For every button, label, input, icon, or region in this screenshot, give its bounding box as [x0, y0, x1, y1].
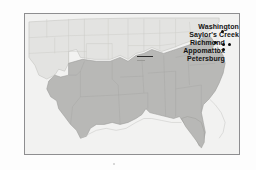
- map-frame: Washington Saylor's Creek Richmond Appom…: [24, 13, 240, 155]
- richmond-dot[interactable]: [222, 43, 225, 46]
- petersburg-dot[interactable]: [222, 48, 225, 51]
- figure-canvas: Washington Saylor's Creek Richmond Appom…: [0, 0, 256, 170]
- page-artifact-mark: [113, 163, 115, 165]
- appomattox-dot[interactable]: [228, 43, 231, 46]
- washington-dot[interactable]: [221, 30, 224, 33]
- us-civil-war-map: [25, 14, 239, 154]
- leader-line-petersburg: [137, 60, 145, 61]
- leader-line-appomattox: [137, 56, 153, 57]
- saylors-creek-dot[interactable]: [214, 41, 217, 44]
